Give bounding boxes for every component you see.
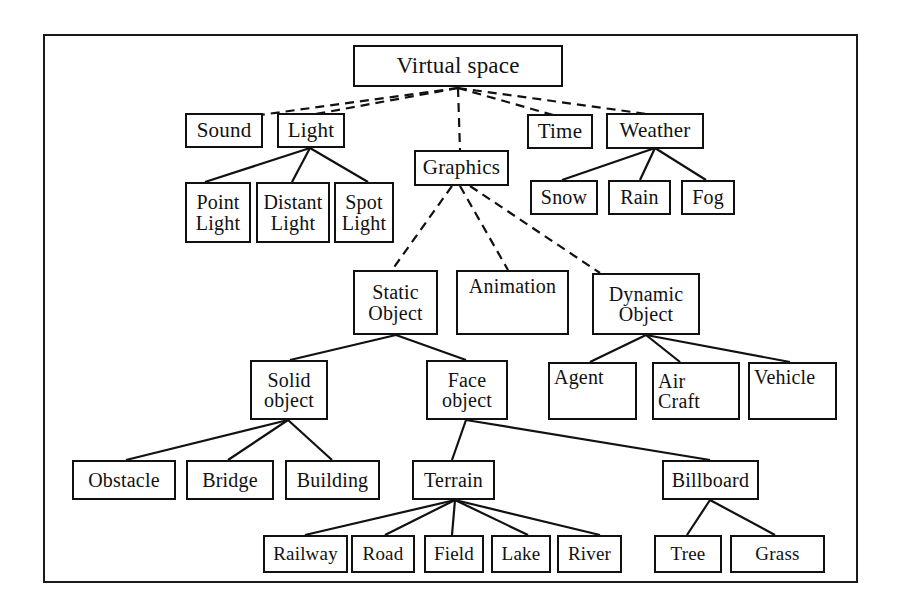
node-graphics[interactable]: Graphics	[414, 150, 509, 186]
node-point-light[interactable]: Point Light	[185, 182, 251, 243]
node-agent[interactable]: Agent	[548, 362, 637, 420]
node-label-line2: Object	[368, 303, 423, 323]
node-label: Railway	[273, 544, 338, 563]
node-animation[interactable]: Animation	[456, 270, 569, 335]
node-label: Field	[434, 544, 474, 563]
node-label: Weather	[620, 120, 691, 141]
node-light[interactable]: Light	[277, 113, 345, 148]
node-rain[interactable]: Rain	[608, 180, 671, 215]
node-air-craft[interactable]: Air Craft	[652, 362, 740, 420]
node-label: Animation	[469, 276, 556, 296]
node-label-line1: Distant	[263, 192, 322, 212]
node-label: Vehicle	[754, 367, 815, 387]
node-time[interactable]: Time	[527, 114, 593, 149]
node-weather[interactable]: Weather	[606, 113, 704, 149]
node-label: Light	[288, 120, 335, 141]
node-label-line2: Light	[196, 213, 240, 233]
node-label: Grass	[755, 544, 799, 563]
node-label: Building	[297, 470, 369, 490]
node-label-line2: object	[442, 390, 492, 410]
node-label: Snow	[541, 187, 587, 207]
node-label-line2: Light	[342, 213, 386, 233]
node-road[interactable]: Road	[351, 535, 415, 573]
node-label: Graphics	[423, 157, 500, 178]
node-field[interactable]: Field	[424, 535, 484, 573]
node-label-line1: Solid	[267, 370, 310, 390]
node-lake[interactable]: Lake	[491, 535, 551, 573]
node-label: Obstacle	[88, 470, 160, 490]
node-label: Sound	[197, 120, 252, 141]
node-label-line1: Face	[448, 370, 487, 390]
node-railway[interactable]: Railway	[263, 535, 348, 573]
node-snow[interactable]: Snow	[530, 180, 598, 215]
node-label-line1: Dynamic	[609, 284, 684, 304]
node-label: Billboard	[672, 470, 749, 490]
node-label: Bridge	[202, 470, 258, 490]
node-label: Lake	[502, 544, 541, 563]
node-label: Time	[538, 121, 582, 142]
node-bridge[interactable]: Bridge	[186, 460, 274, 500]
node-label-line2: Light	[271, 213, 315, 233]
node-terrain[interactable]: Terrain	[412, 460, 495, 500]
node-tree[interactable]: Tree	[654, 535, 722, 573]
node-label-line1: Static	[372, 282, 419, 302]
node-label-line1: Point	[196, 192, 239, 212]
node-billboard[interactable]: Billboard	[662, 460, 759, 500]
node-building[interactable]: Building	[285, 460, 380, 500]
node-label-line1: Air	[658, 371, 685, 391]
node-sound[interactable]: Sound	[185, 113, 263, 148]
node-label: Rain	[620, 187, 659, 207]
node-face-object[interactable]: Face object	[426, 360, 508, 420]
node-label: Road	[363, 544, 404, 563]
node-solid-object[interactable]: Solid object	[250, 360, 328, 420]
diagram-frame	[43, 34, 858, 583]
node-label-line2: Craft	[658, 391, 700, 411]
node-obstacle[interactable]: Obstacle	[72, 460, 176, 500]
node-river[interactable]: River	[557, 535, 622, 573]
node-label: Agent	[554, 367, 604, 387]
node-static-object[interactable]: Static Object	[353, 270, 438, 335]
diagram-canvas: Virtual space Sound Light Graphics Time …	[0, 0, 900, 616]
node-label: Virtual space	[396, 54, 519, 77]
node-label: Tree	[671, 544, 706, 563]
node-vehicle[interactable]: Vehicle	[748, 362, 837, 420]
node-grass[interactable]: Grass	[730, 535, 825, 573]
node-dynamic-object[interactable]: Dynamic Object	[592, 273, 700, 335]
node-label: River	[568, 544, 611, 563]
node-virtual-space[interactable]: Virtual space	[353, 45, 563, 87]
node-spot-light[interactable]: Spot Light	[334, 182, 394, 243]
node-label-line2: Object	[619, 304, 674, 324]
node-label: Fog	[692, 187, 724, 207]
node-distant-light[interactable]: Distant Light	[256, 182, 330, 243]
node-label-line1: Spot	[345, 192, 382, 212]
node-label-line2: object	[264, 390, 314, 410]
node-fog[interactable]: Fog	[681, 180, 735, 215]
node-label: Terrain	[424, 470, 483, 490]
